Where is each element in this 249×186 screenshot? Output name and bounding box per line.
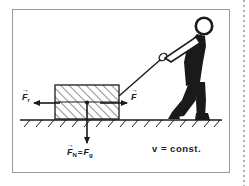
weight-force-subscript: g [89, 152, 93, 158]
vector-hat-icon: → [131, 86, 138, 93]
velocity-constant-label: v = const. [152, 143, 201, 154]
normal-force-subscript: N [73, 152, 77, 158]
diagram-canvas: → Fr → F → FN =Fg v = const. [0, 0, 249, 186]
person-silhouette [165, 18, 212, 120]
friction-force-label: → Fr [22, 92, 30, 103]
applied-force-symbol: F [131, 92, 137, 102]
normal-force-label: → FN =Fg [67, 147, 93, 158]
page-perforation-edge [241, 0, 247, 186]
block-center-dot [85, 100, 89, 104]
diagram-svg [0, 0, 249, 186]
vector-hat-icon: → [22, 86, 29, 93]
equals-sign: = [77, 148, 84, 157]
ground-line [20, 120, 222, 127]
vector-hat-icon: → [67, 141, 74, 148]
friction-force-subscript: r [28, 97, 30, 103]
rope-line [119, 60, 160, 96]
applied-force-label: → F [131, 92, 137, 102]
